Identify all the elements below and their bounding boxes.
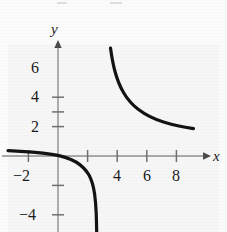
x-tick-label--2: −2 xyxy=(13,168,30,184)
x-axis-label: x xyxy=(213,149,220,164)
y-axis-label: y xyxy=(51,22,58,37)
y-tick-label-2: 2 xyxy=(31,119,39,135)
x-tick-label-4: 4 xyxy=(113,168,121,184)
x-axis-arrowhead xyxy=(203,152,211,159)
y-tick-label--4: −4 xyxy=(19,207,36,223)
x-tick-label-8: 8 xyxy=(172,168,180,184)
y-axis-arrowhead xyxy=(54,40,61,48)
x-tick-label-6: 6 xyxy=(143,168,151,184)
curve-right-branch xyxy=(111,48,194,129)
graph-figure: y x 6 4 2 −4 −2 4 6 8 xyxy=(0,0,227,232)
plot-canvas xyxy=(0,0,227,232)
y-tick-label-6: 6 xyxy=(31,60,39,76)
y-tick-label-4: 4 xyxy=(31,89,39,105)
